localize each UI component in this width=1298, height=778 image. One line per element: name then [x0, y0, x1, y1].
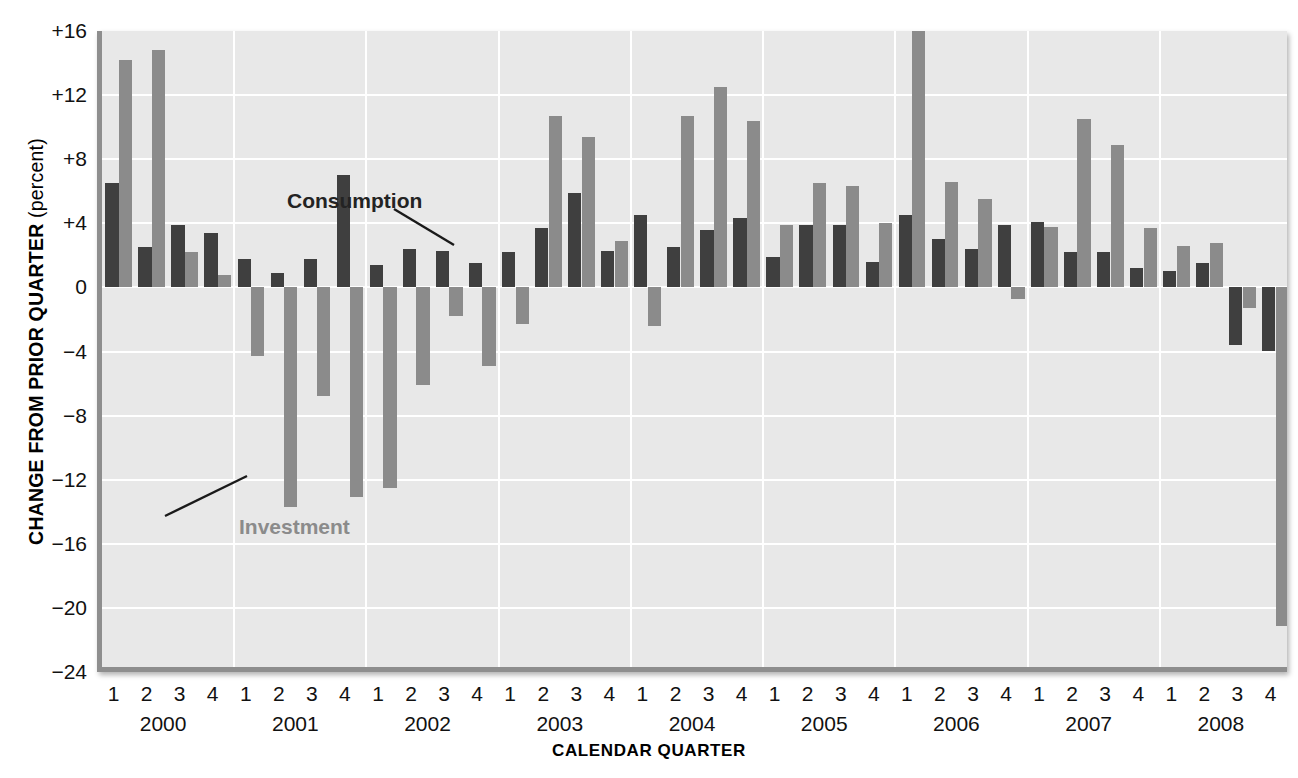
- bar-investment: [1243, 287, 1256, 308]
- gridline-vertical-year-divider: [498, 31, 500, 667]
- x-tick-year: 2007: [1044, 712, 1134, 736]
- bar-investment: [218, 275, 231, 288]
- bar-investment: [1276, 287, 1287, 625]
- bar-consumption: [204, 233, 217, 287]
- x-tick-year: 2004: [647, 712, 737, 736]
- bar-investment: [1144, 228, 1157, 287]
- x-tick-quarter: 3: [826, 682, 856, 706]
- bar-investment: [978, 199, 991, 287]
- gridline-horizontal: [102, 415, 1287, 417]
- x-tick-quarter: 3: [1222, 682, 1252, 706]
- bar-consumption: [965, 249, 978, 287]
- x-tick-quarter: 2: [528, 682, 558, 706]
- bar-investment: [251, 287, 264, 356]
- x-tick-quarter: 4: [859, 682, 889, 706]
- gridline-horizontal: [102, 351, 1287, 353]
- bar-consumption: [1130, 268, 1143, 287]
- x-tick-year: 2003: [515, 712, 605, 736]
- x-tick-year: 2000: [118, 712, 208, 736]
- x-axis-title: CALENDAR QUARTER: [0, 741, 1298, 761]
- bar-investment: [317, 287, 330, 396]
- bar-consumption: [1064, 252, 1077, 287]
- bar-investment: [1210, 243, 1223, 288]
- x-tick-quarter: 3: [429, 682, 459, 706]
- x-tick-quarter: 4: [594, 682, 624, 706]
- bar-consumption: [833, 225, 846, 288]
- bar-consumption: [1229, 287, 1242, 345]
- bar-consumption: [171, 225, 184, 288]
- bar-consumption: [105, 183, 118, 287]
- bar-investment: [648, 287, 661, 325]
- gridline-vertical-year-divider: [762, 31, 764, 667]
- bar-consumption: [138, 247, 151, 287]
- bar-investment: [1111, 145, 1124, 288]
- bar-consumption: [271, 273, 284, 287]
- y-tick-label: −20: [0, 596, 87, 620]
- bar-investment: [350, 287, 363, 497]
- bar-consumption: [899, 215, 912, 287]
- plot-area: Consumption Investment: [97, 31, 1287, 672]
- bar-investment: [846, 186, 859, 287]
- bar-consumption: [1262, 287, 1275, 351]
- bar-investment: [582, 137, 595, 288]
- bar-consumption: [370, 265, 383, 287]
- gridline-horizontal: [102, 222, 1287, 224]
- x-tick-quarter: 3: [297, 682, 327, 706]
- x-tick-quarter: 4: [1255, 682, 1285, 706]
- x-tick-quarter: 4: [330, 682, 360, 706]
- bar-investment: [482, 287, 495, 366]
- bar-consumption: [998, 225, 1011, 288]
- y-tick-label: −24: [0, 660, 87, 684]
- x-tick-quarter: 4: [727, 682, 757, 706]
- bar-investment: [879, 223, 892, 287]
- gridline-vertical-year-divider: [894, 31, 896, 667]
- x-tick-quarter: 4: [1123, 682, 1153, 706]
- bar-consumption: [601, 251, 614, 288]
- gridline-vertical-year-divider: [630, 31, 632, 667]
- bar-consumption: [700, 230, 713, 288]
- y-tick-label: +4: [0, 211, 87, 235]
- bar-investment: [416, 287, 429, 385]
- x-tick-quarter: 2: [925, 682, 955, 706]
- y-tick-label: +8: [0, 147, 87, 171]
- x-tick-quarter: 1: [1024, 682, 1054, 706]
- x-tick-quarter: 2: [1189, 682, 1219, 706]
- x-tick-quarter: 1: [99, 682, 129, 706]
- gridline-vertical-year-divider: [1027, 31, 1029, 667]
- gridline-horizontal: [102, 479, 1287, 481]
- bar-consumption: [766, 257, 779, 287]
- bar-investment: [449, 287, 462, 316]
- x-tick-year: 2006: [911, 712, 1001, 736]
- x-tick-quarter: 2: [1057, 682, 1087, 706]
- y-axis-title-main: CHANGE FROM PRIOR QUARTER: [25, 224, 47, 545]
- bar-investment: [152, 50, 165, 287]
- bar-consumption: [535, 228, 548, 287]
- x-tick-quarter: 3: [561, 682, 591, 706]
- y-tick-label: +16: [0, 19, 87, 43]
- x-tick-quarter: 1: [627, 682, 657, 706]
- x-tick-quarter: 3: [694, 682, 724, 706]
- x-tick-quarter: 2: [396, 682, 426, 706]
- gridline-horizontal: [102, 543, 1287, 545]
- bar-investment: [714, 87, 727, 287]
- bar-consumption: [436, 251, 449, 288]
- bar-consumption: [238, 259, 251, 288]
- y-tick-label: −4: [0, 340, 87, 364]
- bar-consumption: [1163, 271, 1176, 287]
- x-tick-quarter: 2: [660, 682, 690, 706]
- x-tick-quarter: 4: [198, 682, 228, 706]
- x-tick-year: 2001: [250, 712, 340, 736]
- x-tick-quarter: 3: [1090, 682, 1120, 706]
- y-tick-label: 0: [0, 275, 87, 299]
- gridline-vertical-year-divider: [1159, 31, 1161, 667]
- x-tick-quarter: 2: [132, 682, 162, 706]
- bar-investment: [747, 121, 760, 288]
- gridline-horizontal: [102, 94, 1287, 96]
- bar-investment: [780, 225, 793, 288]
- bar-investment: [284, 287, 297, 507]
- x-tick-quarter: 1: [760, 682, 790, 706]
- plot-inner: Consumption Investment: [102, 31, 1287, 667]
- gridline-horizontal: [102, 607, 1287, 609]
- bar-consumption: [866, 262, 879, 288]
- y-tick-label: −16: [0, 532, 87, 556]
